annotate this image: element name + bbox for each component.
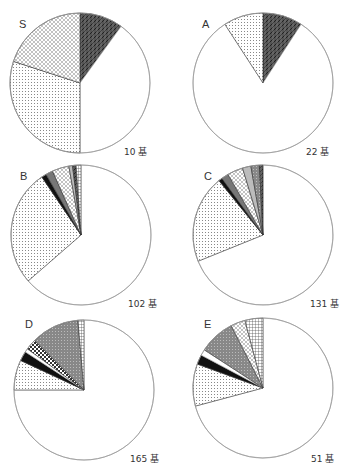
pie-chart-e [193, 318, 333, 458]
pie-title-b: B [20, 170, 27, 182]
pie-title-s: S [19, 18, 26, 30]
pie-chart-d [14, 320, 154, 460]
pie-count-e: 51 基 [311, 452, 334, 465]
pie-chart-grid [0, 0, 341, 471]
pie-chart-a [193, 13, 333, 153]
pie-chart-s [10, 13, 150, 153]
pie-title-e: E [204, 318, 211, 330]
pie-title-c: C [204, 170, 212, 182]
pie-title-d: D [25, 318, 33, 330]
pie-count-s: 10 基 [124, 145, 147, 158]
pie-title-a: A [202, 18, 209, 30]
pie-chart-c [193, 165, 333, 305]
pie-chart-b [11, 165, 151, 305]
pie-count-a: 22 基 [306, 145, 329, 158]
pie-count-c: 131 基 [310, 297, 339, 310]
pie-count-b: 102 基 [128, 297, 157, 310]
pie-count-d: 165 基 [130, 452, 159, 465]
